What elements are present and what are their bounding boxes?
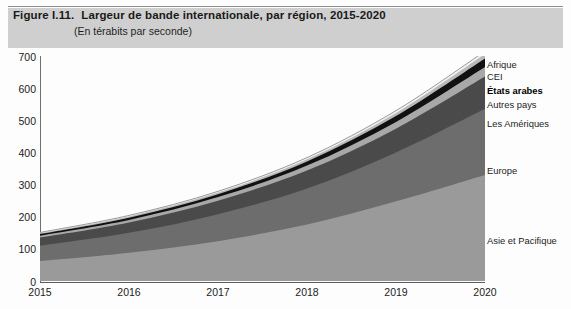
x-axis-tick-label: 2016	[117, 286, 140, 298]
legend-label: Europe	[487, 166, 517, 175]
figure-title: Figure I.11.Largeur de bande internation…	[13, 9, 386, 21]
y-axis-tick-label: 700	[2, 51, 36, 63]
x-axis-tick-label: 2017	[206, 286, 229, 298]
y-axis-ticks: 0100200300400500600700	[0, 56, 36, 282]
y-axis-tick-label: 300	[2, 179, 36, 191]
y-axis-tick-label: 400	[2, 147, 36, 159]
plot-area	[40, 56, 485, 281]
figure-title-text: Largeur de bande internationale, par rég…	[81, 9, 386, 21]
legend-label: CEI	[487, 72, 503, 81]
chart-legend: AfriqueCEIÉtats arabesAutres paysLes Amé…	[487, 56, 571, 282]
top-divider	[8, 6, 563, 7]
legend-label: Asie et Pacifique	[487, 236, 557, 245]
legend-label: Les Amériques	[487, 119, 549, 128]
y-axis-tick-label: 600	[2, 83, 36, 95]
figure-container: Figure I.11.Largeur de bande internation…	[0, 0, 571, 309]
legend-label: Afrique	[487, 60, 517, 69]
legend-label: États arabes	[487, 86, 543, 95]
y-axis-tick-label: 200	[2, 211, 36, 223]
figure-subtitle: (En térabits par seconde)	[74, 25, 192, 37]
legend-label: Autres pays	[487, 100, 537, 109]
y-axis-tick-label: 100	[2, 243, 36, 255]
x-axis-tick-label: 2018	[295, 286, 318, 298]
x-axis-tick-label: 2020	[473, 286, 496, 298]
x-axis-tick-label: 2019	[384, 286, 407, 298]
stacked-area-svg	[40, 56, 485, 281]
x-axis-tick-label: 2015	[28, 286, 51, 298]
x-axis-line	[40, 282, 485, 283]
figure-number: Figure I.11.	[13, 9, 74, 21]
y-axis-tick-label: 500	[2, 115, 36, 127]
